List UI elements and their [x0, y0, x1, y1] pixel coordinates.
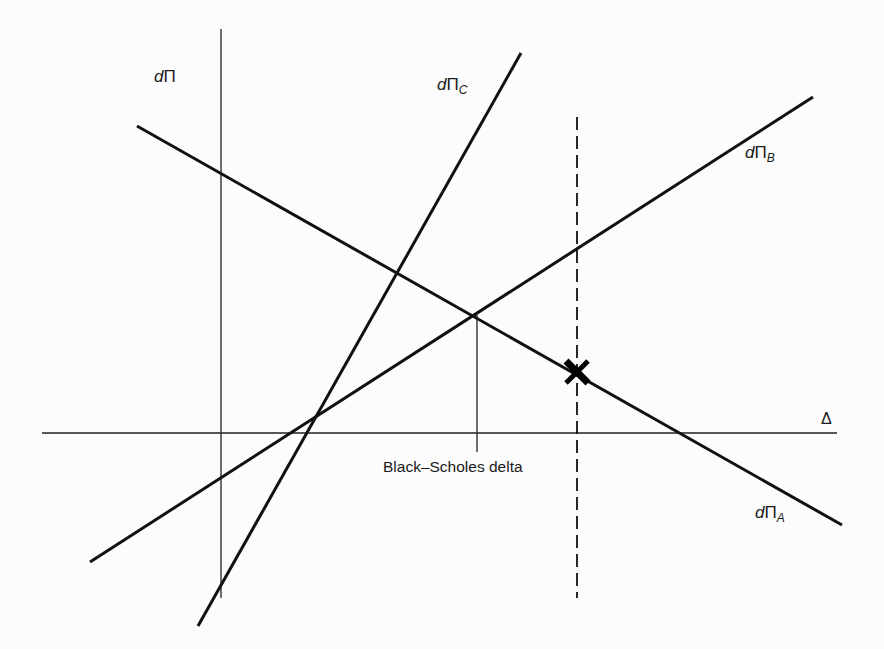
line-c [198, 53, 521, 626]
bs-delta-label: Black–Scholes delta [383, 459, 523, 475]
x-axis-label: Δ [821, 411, 832, 427]
line-c-label: dΠC [437, 76, 467, 96]
line-b-label: dΠB [745, 144, 775, 164]
line-b-label-symbol: Π [754, 143, 766, 162]
diagram-canvas: dΠ Δ dΠC dΠB dΠA Black–Scholes delta [0, 0, 884, 649]
y-axis-label: dΠ [154, 68, 176, 85]
line-c-label-symbol: Π [446, 75, 458, 94]
line-a-label-symbol: Π [764, 503, 776, 522]
line-a-label-sub: A [777, 511, 785, 525]
y-axis-label-symbol: Π [163, 67, 175, 86]
line-b [90, 97, 813, 562]
line-b-label-sub: B [767, 151, 775, 165]
diagram-svg [0, 0, 884, 649]
line-c-label-sub: C [459, 83, 468, 97]
line-a-label: dΠA [755, 504, 785, 524]
